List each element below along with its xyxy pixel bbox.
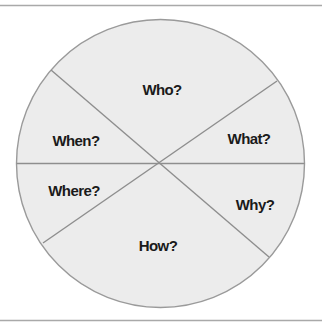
segment-label-what: What? [228,130,271,147]
segment-label-when: When? [53,132,100,149]
diagram-frame: Who? What? Why? How? Where? When? [0,0,322,329]
segment-label-how: How? [139,237,178,254]
segment-label-who: Who? [142,81,182,98]
segment-label-why: Why? [236,196,275,213]
five-w-one-h-circle-diagram: Who? What? Why? How? Where? When? [0,0,322,329]
segment-label-where: Where? [48,182,100,199]
